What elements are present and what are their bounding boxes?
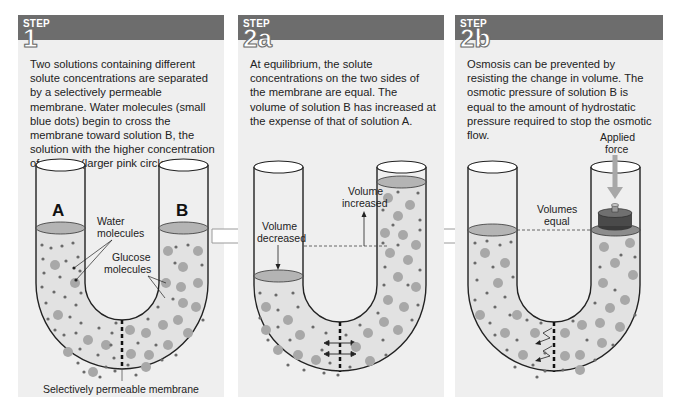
glucose-label-line2: molecules <box>104 263 151 275</box>
weight-icon <box>598 204 632 231</box>
step-2a-panel: STEP 2a At equilibrium, the solute conce… <box>238 15 444 397</box>
u-tube-diagram-step-2b: Applied force Volumes equal <box>455 15 663 397</box>
volume-decreased-line2: decreased <box>257 232 306 244</box>
volume-increased-line1: Volume <box>348 185 383 197</box>
step-1-panel: STEP 1 Two solutions containing differen… <box>18 15 224 397</box>
u-tube-diagram-step-2a: Volume decreased Volume increased <box>238 15 444 397</box>
water-label-line2: molecules <box>97 227 144 239</box>
volumes-equal-line2: equal <box>544 215 570 227</box>
membrane-label: Selectively permeable membrane <box>43 383 199 395</box>
applied-force-line1: Applied <box>600 131 635 143</box>
tube-a-label: A <box>52 201 64 220</box>
u-tube-diagram-step-1: A B Water molecules Glucose molecules Se… <box>18 15 224 397</box>
step-2b-panel: STEP 2b Osmosis can be prevented by resi… <box>455 15 663 397</box>
volume-decreased-line1: Volume <box>262 220 297 232</box>
applied-force-line2: force <box>605 143 629 155</box>
water-label-line1: Water <box>97 215 125 227</box>
glucose-label-line1: Glucose <box>112 251 151 263</box>
volumes-equal-line1: Volumes <box>537 203 577 215</box>
volume-increased-line2: increased <box>342 197 388 209</box>
tube-b-label: B <box>176 201 188 220</box>
